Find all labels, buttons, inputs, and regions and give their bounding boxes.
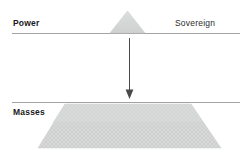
power-tier-label: Power	[13, 19, 40, 28]
masses-trapezoid-upper-shade	[53, 104, 203, 122]
masses-tier-label: Masses	[13, 108, 45, 117]
sovereign-actor-label: Sovereign	[175, 19, 215, 28]
diagram-canvas: Power Sovereign Masses	[0, 0, 251, 165]
sovereign-triangle	[110, 11, 145, 33]
power-flow-arrow-head	[126, 90, 134, 100]
